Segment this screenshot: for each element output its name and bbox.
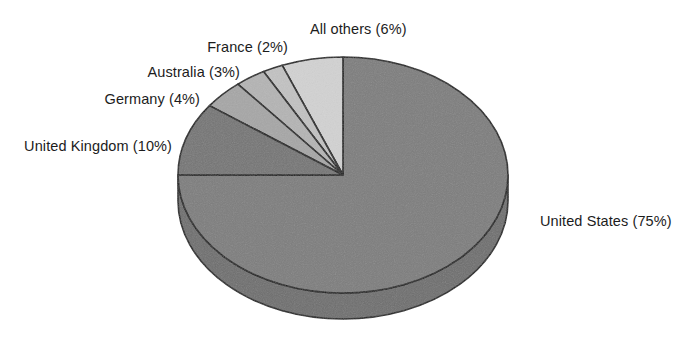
slice-label-germany: Germany (4%) xyxy=(105,91,200,108)
slice-label-united-kingdom: United Kingdom (10%) xyxy=(24,138,172,155)
pie-chart: All others (6%) France (2%) Australia (3… xyxy=(0,0,693,347)
pie-geometry xyxy=(178,57,508,319)
slice-label-united-states: United States (75%) xyxy=(540,213,672,230)
slice-label-all-others: All others (6%) xyxy=(310,21,407,38)
slice-label-france: France (2%) xyxy=(207,39,288,56)
pie-chart-graphic xyxy=(0,0,693,347)
slice-label-australia: Australia (3%) xyxy=(148,64,240,81)
